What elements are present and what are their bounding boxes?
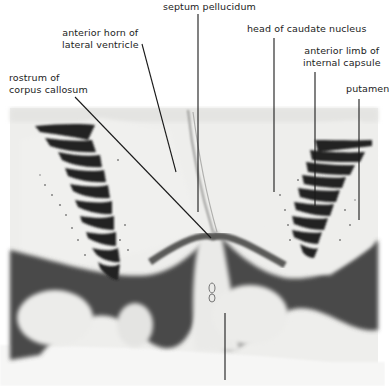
label-putamen: putamen <box>346 83 389 95</box>
label-anterior-limb: anterior limb of internal capsule <box>303 45 381 69</box>
label-rostrum: rostrum of corpus callosum <box>9 72 88 96</box>
label-head-caudate: head of caudate nucleus <box>247 23 366 35</box>
label-anterior-horn: anterior horn of lateral ventricle <box>62 27 139 51</box>
label-septum-pellucidum: septum pellucidum <box>163 1 256 13</box>
